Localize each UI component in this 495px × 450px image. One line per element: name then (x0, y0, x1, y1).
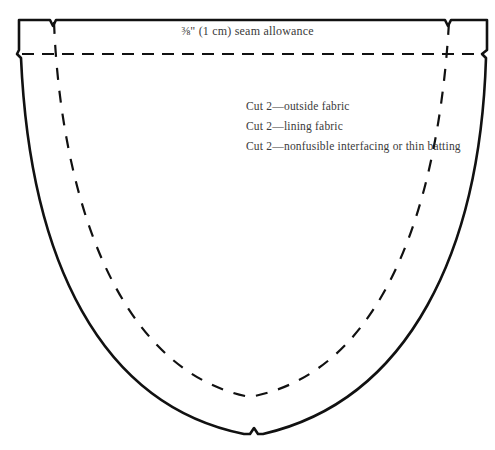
instruction-lining-fabric: Cut 2—lining fabric (246, 116, 461, 136)
pattern-piece (0, 0, 495, 450)
seam-line-inner (54, 22, 449, 397)
cutting-instructions: Cut 2—outside fabric Cut 2—lining fabric… (246, 96, 461, 156)
instruction-interfacing: Cut 2—nonfusible interfacing or thin bat… (246, 136, 461, 156)
cutting-outline (17, 20, 487, 434)
instruction-outside-fabric: Cut 2—outside fabric (246, 96, 461, 116)
seam-allowance-label: ⅜" (1 cm) seam allowance (0, 24, 495, 39)
